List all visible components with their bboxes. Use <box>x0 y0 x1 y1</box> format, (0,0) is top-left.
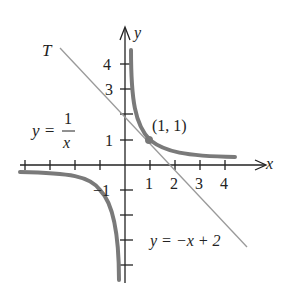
x-tick-4: 4 <box>220 175 228 192</box>
tangent-label: T <box>42 41 53 60</box>
y-tick-3: 3 <box>105 81 113 98</box>
x-tick-1: 1 <box>145 175 153 192</box>
point-label: (1, 1) <box>152 117 187 135</box>
y-tick-neg1: −1 <box>93 182 110 199</box>
x-tick-3: 3 <box>195 175 203 192</box>
y-axis-label: y <box>132 24 142 42</box>
y-tick-4: 4 <box>103 56 111 73</box>
x-axis-label: x <box>265 155 273 172</box>
graph: T y x 4 3 1 −1 1 2 3 4 (1, 1) y = 1 x y … <box>0 0 284 288</box>
tangent-point <box>145 136 153 144</box>
curve-label-denominator: x <box>62 134 70 151</box>
curve-label-numerator: 1 <box>64 110 72 127</box>
tangent-line <box>60 48 247 247</box>
x-tick-2: 2 <box>170 175 178 192</box>
curve-label-lhs: y = <box>30 121 55 140</box>
y-tick-1: 1 <box>105 132 113 149</box>
tangent-equation: y = −x + 2 <box>148 232 221 250</box>
